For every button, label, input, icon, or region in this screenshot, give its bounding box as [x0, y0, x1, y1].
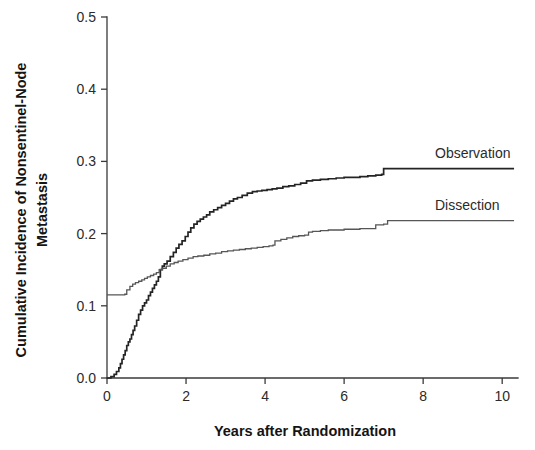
- y-tick-label: 0.5: [77, 9, 97, 25]
- y-tick-label: 0.1: [77, 298, 97, 314]
- cumulative-incidence-chart: 0246810 0.00.10.20.30.40.5 ObservationDi…: [0, 0, 535, 450]
- y-axis-title-line-1: Cumulative Incidence of Nonsentinel-Node: [13, 63, 29, 358]
- x-tick-label: 10: [494, 388, 510, 404]
- x-tick-label: 8: [419, 388, 427, 404]
- x-tick-label: 0: [103, 388, 111, 404]
- series-label-observation: Observation: [435, 145, 510, 161]
- y-tick-label: 0.2: [77, 226, 97, 242]
- y-tick-label: 0.3: [77, 153, 97, 169]
- y-tick-label: 0.4: [77, 81, 97, 97]
- curve-dissection: [107, 221, 514, 295]
- x-axis-ticks: 0246810: [103, 378, 510, 404]
- y-axis-ticks: 0.00.10.20.30.40.5: [77, 9, 107, 386]
- x-tick-label: 2: [182, 388, 190, 404]
- series-annotations: ObservationDissection: [435, 145, 510, 213]
- x-tick-label: 6: [340, 388, 348, 404]
- x-axis-title: Years after Randomization: [214, 423, 396, 439]
- x-tick-label: 4: [261, 388, 269, 404]
- y-axis-title-line-2: Metastasis: [34, 173, 50, 247]
- y-tick-label: 0.0: [77, 370, 97, 386]
- series-label-dissection: Dissection: [435, 197, 500, 213]
- plot-area: 0246810 0.00.10.20.30.40.5 ObservationDi…: [77, 9, 518, 404]
- chart-figure: 0246810 0.00.10.20.30.40.5 ObservationDi…: [0, 0, 535, 450]
